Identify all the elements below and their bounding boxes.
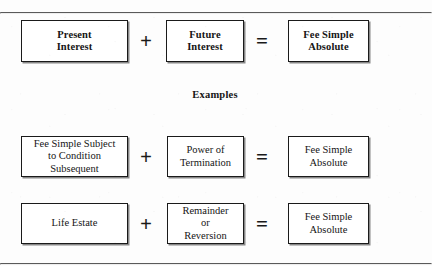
box-life-estate-label: Life Estate (49, 217, 101, 229)
box-power-of-termination: Power of Termination (167, 136, 244, 177)
box-fee-simple-absolute-row2: Fee Simple Absolute (288, 136, 369, 177)
box-present-interest: Present Interest (21, 20, 128, 62)
operator-plus-row1: + (135, 31, 157, 52)
box-remainder-or-reversion: Remainder or Reversion (167, 203, 244, 244)
operator-equals-row1: = (250, 31, 274, 52)
box-fee-simple-absolute-row3: Fee Simple Absolute (288, 203, 369, 244)
box-fee-simple-absolute-row3-label: Fee Simple Absolute (302, 211, 356, 236)
page-rule-top (0, 12, 432, 14)
box-remainder-or-reversion-label: Remainder or Reversion (179, 205, 231, 242)
box-fee-simple-absolute-row2-label: Fee Simple Absolute (302, 144, 356, 169)
operator-equals-row2: = (250, 147, 274, 168)
box-future-interest-label: Future Interest (184, 29, 226, 54)
box-fee-simple-absolute-row1-label: Fee Simple Absolute (300, 29, 356, 54)
box-fee-simple-subject-to-condition-subsequent: Fee Simple Subject to Condition Subseque… (21, 136, 128, 177)
page-rule-bottom (0, 263, 432, 265)
box-fee-simple-subject-to-condition-subsequent-label: Fee Simple Subject to Condition Subseque… (31, 138, 119, 175)
box-fee-simple-absolute-row1: Fee Simple Absolute (288, 20, 369, 62)
operator-plus-row2: + (135, 147, 157, 168)
box-future-interest: Future Interest (166, 20, 244, 62)
operator-plus-row3: + (135, 214, 157, 235)
box-present-interest-label: Present Interest (54, 29, 96, 54)
box-power-of-termination-label: Power of Termination (177, 144, 234, 169)
examples-caption: Examples (0, 89, 430, 100)
operator-equals-row3: = (250, 214, 274, 235)
box-life-estate: Life Estate (21, 203, 128, 244)
